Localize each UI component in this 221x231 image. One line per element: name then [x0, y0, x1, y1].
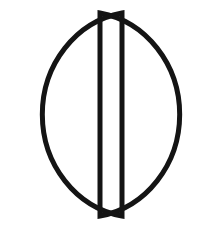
background-rect [0, 0, 221, 231]
split-circle-figure [0, 0, 221, 231]
image-canvas [0, 0, 221, 231]
